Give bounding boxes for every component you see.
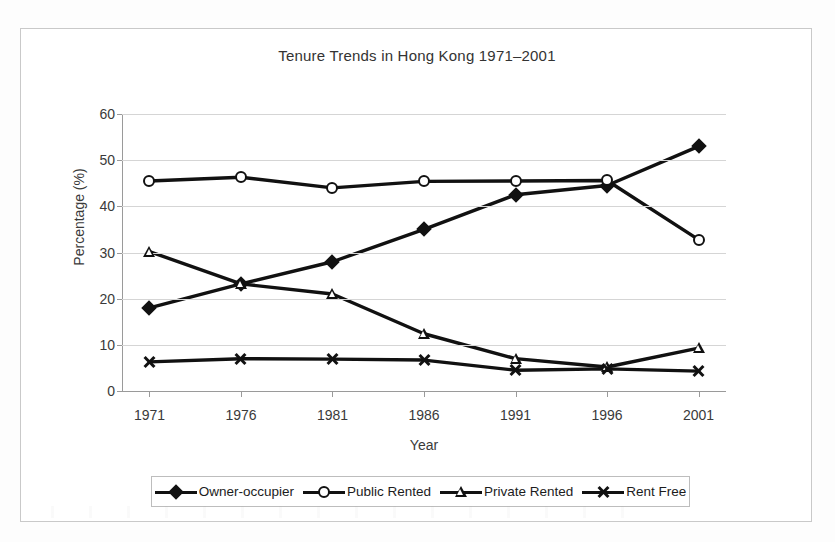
y-axis-tick-mark	[117, 114, 122, 115]
legend-marker-icon	[440, 485, 482, 499]
legend-marker-icon	[582, 485, 624, 499]
data-point-marker	[418, 328, 430, 339]
scanned-page: Tenure Trends in Hong Kong 1971–2001 Per…	[0, 0, 835, 542]
legend-item[interactable]: Private Rented	[440, 484, 573, 499]
y-axis-tick-label: 20	[75, 291, 115, 307]
gridline	[122, 253, 726, 254]
x-axis-tick-mark	[332, 392, 333, 397]
y-axis-tick-label: 10	[75, 337, 115, 353]
gridline	[122, 345, 726, 346]
x-axis-tick-label: 1981	[317, 407, 348, 423]
data-point-marker	[235, 278, 247, 289]
data-point-marker	[510, 175, 522, 187]
y-axis-tick-label: 40	[75, 198, 115, 214]
plot-area	[122, 114, 726, 391]
scan-artifact	[51, 506, 651, 518]
legend-point-marker	[596, 485, 610, 499]
data-point-marker	[325, 352, 339, 366]
y-axis-tick-mark	[117, 391, 122, 392]
legend-item[interactable]: Owner-occupier	[155, 484, 294, 499]
chart-title: Tenure Trends in Hong Kong 1971–2001	[21, 47, 813, 64]
x-axis-tick-label: 2001	[683, 407, 714, 423]
data-point-marker	[143, 246, 155, 257]
legend-point-marker	[455, 485, 467, 496]
gridline	[122, 299, 726, 300]
legend-marker-icon	[155, 485, 197, 499]
gridline	[122, 114, 726, 115]
x-axis-tick-label: 1976	[225, 407, 256, 423]
legend-label: Public Rented	[347, 484, 431, 499]
x-axis-tick-label: 1991	[500, 407, 531, 423]
data-point-marker	[142, 355, 156, 369]
x-axis-tick-label: 1986	[408, 407, 439, 423]
series-line	[149, 252, 698, 367]
data-point-marker	[692, 364, 706, 378]
y-axis-tick-mark	[117, 206, 122, 207]
y-axis-tick-label: 30	[75, 245, 115, 261]
x-axis-tick-label: 1996	[591, 407, 622, 423]
data-point-marker	[418, 175, 430, 187]
chart-legend: Owner-occupierPublic RentedPrivate Rente…	[151, 476, 690, 507]
x-axis-tick-mark	[241, 392, 242, 397]
data-point-marker	[234, 352, 248, 366]
gridline	[122, 160, 726, 161]
y-axis-tick-mark	[117, 345, 122, 346]
legend-item[interactable]: Public Rented	[303, 484, 431, 499]
x-axis-tick-mark	[516, 392, 517, 397]
legend-point-marker	[168, 484, 184, 500]
x-axis-tick-mark	[424, 392, 425, 397]
legend-item[interactable]: Rent Free	[582, 484, 686, 499]
x-axis-tick-mark	[149, 392, 150, 397]
legend-label: Rent Free	[626, 484, 686, 499]
data-point-marker	[326, 182, 338, 194]
data-point-marker	[600, 362, 614, 376]
data-point-marker	[509, 363, 523, 377]
y-axis-tick-label: 50	[75, 152, 115, 168]
x-axis-tick-mark	[699, 392, 700, 397]
y-axis-tick-mark	[117, 160, 122, 161]
data-point-marker	[693, 342, 705, 353]
y-axis-tick-mark	[117, 299, 122, 300]
data-point-marker	[326, 288, 338, 299]
data-point-marker	[417, 353, 431, 367]
x-axis-title: Year	[122, 437, 726, 453]
legend-label: Owner-occupier	[199, 484, 294, 499]
data-point-marker	[510, 353, 522, 364]
legend-marker-icon	[303, 485, 345, 499]
y-axis-tick-label: 60	[75, 106, 115, 122]
y-axis-tick-labels: 0102030405060	[71, 114, 115, 391]
x-axis-tick-label: 1971	[134, 407, 165, 423]
y-axis-tick-label: 0	[75, 383, 115, 399]
legend-label: Private Rented	[484, 484, 573, 499]
chart-frame: Tenure Trends in Hong Kong 1971–2001 Per…	[20, 28, 812, 522]
data-point-marker	[235, 171, 247, 183]
data-point-marker	[601, 174, 613, 186]
data-point-marker	[693, 234, 705, 246]
data-point-marker	[143, 175, 155, 187]
x-axis-tick-mark	[607, 392, 608, 397]
y-axis-tick-mark	[117, 253, 122, 254]
gridline	[122, 206, 726, 207]
legend-point-marker	[318, 486, 330, 498]
